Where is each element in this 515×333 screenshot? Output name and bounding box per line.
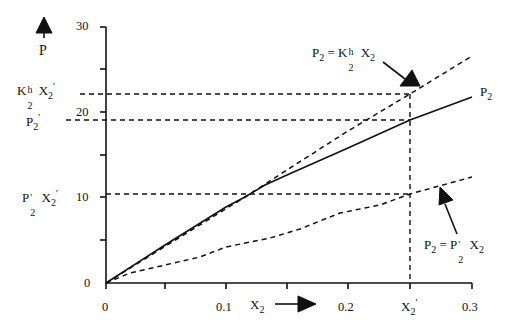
- y-tick-0: 0: [84, 277, 90, 290]
- x-tick-0-3: 0.3: [462, 301, 478, 314]
- annotation-p2-p2prime-x2: P2 = P'2 X2: [424, 238, 484, 255]
- x-tick-x2prime: X2': [401, 298, 417, 317]
- arrow-head-p2prime-icon: [439, 187, 453, 205]
- x-arrow-icon: [298, 296, 316, 312]
- y-axis-label: P: [39, 44, 47, 58]
- y-tick-20: 20: [76, 106, 89, 119]
- x-tick-0-2: 0.2: [338, 301, 354, 314]
- y-tick-30: 30: [76, 20, 89, 33]
- axes: [100, 27, 472, 289]
- annotation-arrows: [36, 17, 457, 312]
- reference-lines: [66, 94, 410, 283]
- annotation-p2-k2h-x2: P2 = Kh2 X2: [312, 46, 375, 63]
- x-axis-label: X2: [250, 298, 264, 315]
- label-p2prime: P2': [26, 113, 40, 132]
- y-arrow-icon: [36, 17, 52, 33]
- series-p2prime-dashed: [106, 177, 472, 283]
- chart-canvas: [0, 0, 515, 333]
- label-k2h-x2prime: Kh2 X2': [17, 82, 55, 101]
- x-tick-0-1: 0.1: [216, 301, 232, 314]
- x-tick-0: 0: [102, 301, 108, 314]
- series-label-p2: P2: [480, 85, 492, 102]
- series-k2h-dashed: [106, 56, 472, 283]
- series-p2-solid: [106, 97, 472, 283]
- y-tick-10: 10: [76, 191, 89, 204]
- label-p2prime-x2prime: P'2 X2': [22, 189, 58, 208]
